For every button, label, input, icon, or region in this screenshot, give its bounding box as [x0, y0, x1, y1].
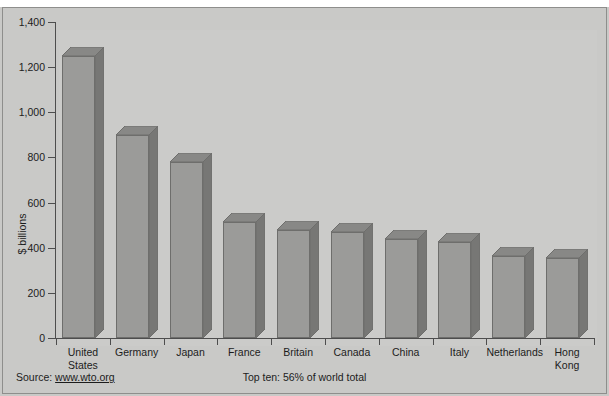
bar — [385, 230, 427, 338]
x-axis-category-label: Hong Kong — [540, 346, 594, 371]
y-axis-tick-label: 800 — [0, 151, 45, 163]
y-axis-line — [55, 22, 56, 339]
bar-side-face — [364, 223, 373, 338]
y-axis-tick-label: 200 — [0, 287, 45, 299]
bar-front-face — [170, 162, 203, 338]
x-axis-category-label: China — [379, 346, 433, 359]
bar-front-face — [546, 258, 579, 338]
x-axis-category-label: Japan — [164, 346, 218, 359]
x-axis-category-label: Germany — [110, 346, 164, 359]
chart-figure: 1,4001,2001,0008006004002000 $ billions … — [0, 0, 609, 396]
bar — [546, 249, 588, 338]
y-axis-tick-label: 1,200 — [0, 61, 45, 73]
x-axis-tick — [56, 339, 57, 345]
x-axis-tick — [271, 339, 272, 345]
bar-front-face — [438, 242, 471, 338]
x-axis-category-label: Britain — [271, 346, 325, 359]
x-axis-category-label: United States — [56, 346, 110, 371]
bar — [277, 221, 319, 338]
bar — [223, 213, 265, 338]
x-axis-tick — [594, 339, 595, 345]
bar — [438, 233, 480, 338]
y-axis-tick-label: 0 — [0, 332, 45, 344]
y-axis-tick — [48, 338, 55, 339]
bar-front-face — [385, 239, 418, 338]
y-axis-tick — [48, 293, 55, 294]
bar-front-face — [223, 222, 256, 338]
x-axis-tick — [486, 339, 487, 345]
bar — [116, 126, 158, 338]
bar-front-face — [277, 230, 310, 338]
bar — [492, 247, 534, 338]
bar-side-face — [310, 221, 319, 338]
bar — [62, 47, 104, 338]
bar-side-face — [203, 153, 212, 338]
y-axis-tick — [48, 248, 55, 249]
y-axis-tick — [48, 203, 55, 204]
bar — [170, 153, 212, 338]
x-axis-tick — [540, 339, 541, 345]
bar-side-face — [471, 233, 480, 338]
figure-top-margin — [0, 0, 609, 7]
x-axis-tick — [433, 339, 434, 345]
x-axis-category-label: France — [217, 346, 271, 359]
x-axis-category-label: Canada — [325, 346, 379, 359]
x-axis-tick — [325, 339, 326, 345]
bar-side-face — [149, 126, 158, 338]
bar-side-face — [579, 249, 588, 338]
bar-front-face — [62, 56, 95, 338]
x-axis-category-label: Italy — [433, 346, 487, 359]
y-axis-tick — [48, 67, 55, 68]
bar-front-face — [492, 256, 525, 338]
y-axis-tick-label: 1,400 — [0, 16, 45, 28]
x-axis-tick — [164, 339, 165, 345]
x-axis-tick — [217, 339, 218, 345]
bar — [331, 223, 373, 338]
bar-side-face — [95, 47, 104, 338]
bar-side-face — [256, 213, 265, 338]
y-axis-tick — [48, 157, 55, 158]
x-axis-tick — [110, 339, 111, 345]
y-axis-tick — [48, 112, 55, 113]
bar-front-face — [331, 232, 364, 338]
chart-subtitle: Top ten: 56% of world total — [0, 371, 609, 383]
bar-side-face — [418, 230, 427, 338]
y-axis-tick — [48, 22, 55, 23]
bar-front-face — [116, 135, 149, 338]
y-axis-title: $ billions — [16, 194, 28, 274]
bar-side-face — [525, 247, 534, 338]
x-axis-category-label: Netherlands — [486, 346, 540, 359]
x-axis-tick — [379, 339, 380, 345]
y-axis-tick-label: 1,000 — [0, 106, 45, 118]
